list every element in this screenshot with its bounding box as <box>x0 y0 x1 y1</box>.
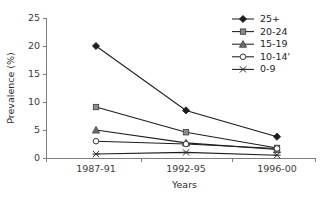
series-line <box>96 46 277 137</box>
legend-item-15-19[interactable]: 15-19 <box>232 38 288 49</box>
data-point-marker <box>93 138 99 144</box>
legend-item-10-14-[interactable]: 10-14' <box>232 51 290 62</box>
y-tick-label: 20 <box>28 40 40 51</box>
legend-marker <box>240 29 245 34</box>
data-series-group <box>92 42 280 158</box>
y-axis-title: Prevalence (%) <box>5 52 16 124</box>
data-point-marker <box>273 133 280 140</box>
legend-item-0-9[interactable]: 0-9 <box>232 63 276 74</box>
x-tick-label: 1987-91 <box>76 163 116 174</box>
legend-label: 20-24 <box>260 26 288 37</box>
y-tick-label: 10 <box>28 96 40 107</box>
data-point-marker <box>92 42 99 49</box>
legend-item-25-[interactable]: 25+ <box>232 13 280 24</box>
legend-label: 25+ <box>260 13 280 24</box>
x-axis-title: Years <box>171 179 197 190</box>
legend-label: 0-9 <box>260 63 276 74</box>
y-tick-label: 15 <box>28 68 40 79</box>
legend-label: 10-14' <box>260 51 290 62</box>
chart-container: 0510152025 1987-911992-951996-00 Prevale… <box>0 0 325 197</box>
y-tick-label: 25 <box>28 12 40 23</box>
data-point-marker <box>92 151 99 157</box>
legend-label: 15-19 <box>260 38 288 49</box>
y-tick-label: 5 <box>34 124 40 135</box>
data-point-marker <box>274 146 280 152</box>
y-tick-label: 0 <box>34 152 40 163</box>
x-tick-label: 1996-00 <box>257 163 297 174</box>
data-point-marker <box>182 149 189 155</box>
legend-marker <box>239 15 246 22</box>
data-point-marker <box>183 130 188 135</box>
line-chart: 0510152025 1987-911992-951996-00 Prevale… <box>0 0 325 197</box>
legend-marker <box>239 66 246 72</box>
data-point-marker <box>183 141 189 147</box>
series-0-9 <box>92 149 280 158</box>
data-point-marker <box>93 104 98 109</box>
legend-item-20-24[interactable]: 20-24 <box>232 26 288 37</box>
x-tick-label: 1992-95 <box>166 163 206 174</box>
y-axis-ticks: 0510152025 <box>28 12 46 163</box>
chart-legend: 25+20-2415-1910-14'0-9 <box>232 13 290 74</box>
x-axis-ticks: 1987-911992-951996-00 <box>46 158 315 174</box>
data-point-marker <box>182 107 189 114</box>
legend-marker <box>240 54 246 60</box>
data-point-marker <box>92 126 99 133</box>
